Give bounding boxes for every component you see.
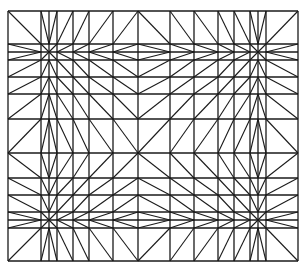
diagonal-edge	[170, 52, 194, 60]
diagonal-edge	[250, 94, 258, 119]
diagonal-edge	[41, 77, 49, 94]
diagonal-edge	[218, 11, 234, 44]
diagonal-edge	[57, 52, 73, 60]
diagonal-edge	[89, 119, 113, 153]
diagonal-edge	[258, 228, 266, 261]
diagonal-edge	[41, 228, 49, 261]
diagonal-edge	[138, 153, 170, 178]
diagonal-edge	[234, 195, 250, 212]
diagonal-edge	[49, 178, 57, 195]
diagonal-edge	[8, 220, 41, 228]
diagonal-edge	[8, 212, 41, 220]
diagonal-edge	[41, 178, 49, 195]
diagonal-edge	[41, 153, 49, 178]
diagonal-edge	[258, 153, 266, 178]
diagonal-edge	[113, 77, 138, 94]
diagonal-edge	[89, 228, 113, 261]
diagonal-edge	[258, 77, 266, 94]
diagonal-edge	[57, 60, 73, 77]
diagonal-edge	[170, 178, 194, 195]
diagonal-edge	[41, 212, 49, 220]
diagonal-edge	[218, 195, 234, 212]
diagonal-edge	[41, 119, 49, 153]
diagonal-edge	[250, 212, 258, 220]
diagonal-edge	[218, 178, 234, 195]
diagonal-edge	[258, 60, 266, 77]
diagonal-edge	[73, 52, 89, 60]
diagonal-edge	[194, 94, 218, 119]
diagonal-edge	[258, 220, 266, 228]
diagonal-edge	[57, 220, 73, 228]
diagonal-edge	[41, 195, 49, 212]
diagonal-edge	[138, 77, 170, 94]
diagonal-edge	[250, 228, 258, 261]
diagonal-edge	[73, 94, 89, 119]
diagonal-edge	[57, 153, 73, 178]
diagonal-edge	[194, 77, 218, 94]
diagonal-edge	[41, 60, 49, 77]
diagonal-edge	[266, 212, 298, 220]
diagonal-edge	[266, 11, 298, 44]
diagonal-edge	[258, 44, 266, 52]
diagonal-edge	[49, 228, 57, 261]
diagonal-edge	[57, 212, 73, 220]
diagonal-edge	[138, 60, 170, 77]
diagonal-edge	[170, 119, 194, 153]
diagonal-edge	[138, 228, 170, 261]
diagonal-edge	[41, 11, 49, 44]
diagonal-edge	[170, 228, 194, 261]
diagonal-edge	[194, 44, 218, 52]
diagonal-edge	[234, 153, 250, 178]
diagonal-edge	[258, 119, 266, 153]
diagonal-edge	[41, 52, 49, 60]
diagonal-edge	[266, 178, 298, 195]
diagonal-edge	[250, 153, 258, 178]
diagonal-edge	[113, 44, 138, 52]
diagonal-edge	[170, 60, 194, 77]
diagonal-edge	[266, 77, 298, 94]
diagonal-edge	[49, 60, 57, 77]
diagonal-edge	[234, 119, 250, 153]
diagonal-edge	[138, 11, 170, 44]
diagonal-edge	[258, 11, 266, 44]
diagonal-edge	[73, 178, 89, 195]
diagonal-edge	[49, 94, 57, 119]
diagonal-edge	[234, 94, 250, 119]
diagonal-edge	[41, 94, 49, 119]
diagonal-edge	[57, 94, 73, 119]
diagonal-edge	[218, 212, 234, 220]
diagonal-edge	[73, 195, 89, 212]
diagonal-edge	[57, 44, 73, 52]
diagonal-edge	[89, 94, 113, 119]
diagonal-edge	[89, 52, 113, 60]
diagonal-edge	[113, 153, 138, 178]
diagonal-edge	[113, 119, 138, 153]
diagonal-edge	[266, 220, 298, 228]
diagonal-edge	[113, 220, 138, 228]
diagonal-edge	[138, 178, 170, 195]
diagonal-edge	[258, 52, 266, 60]
diagonal-edge	[113, 212, 138, 220]
diagonal-edge	[250, 11, 258, 44]
diagonal-edge	[266, 195, 298, 212]
diagonal-edge	[57, 195, 73, 212]
diagonal-edge	[170, 212, 194, 220]
diagonal-edge	[218, 153, 234, 178]
triangle-mesh	[0, 0, 304, 276]
diagonal-edge	[218, 220, 234, 228]
diagonal-edge	[8, 60, 41, 77]
diagonal-edge	[89, 195, 113, 212]
diagonal-edge	[266, 94, 298, 119]
diagonal-edge	[73, 119, 89, 153]
diagonal-edge	[57, 178, 73, 195]
mesh-diagonal-edges	[8, 11, 298, 261]
diagonal-edge	[89, 44, 113, 52]
diagonal-edge	[8, 94, 41, 119]
diagonal-edge	[218, 228, 234, 261]
diagonal-edge	[266, 52, 298, 60]
diagonal-edge	[49, 153, 57, 178]
diagonal-edge	[138, 195, 170, 212]
diagonal-edge	[89, 153, 113, 178]
diagonal-edge	[218, 44, 234, 52]
diagonal-edge	[234, 220, 250, 228]
